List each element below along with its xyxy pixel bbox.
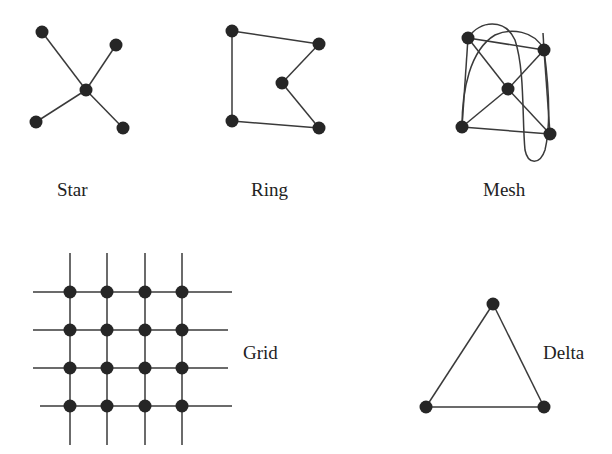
delta-node: [538, 401, 551, 414]
delta-topology: [420, 298, 551, 414]
grid-node: [176, 362, 189, 375]
mesh-edge: [508, 50, 544, 89]
delta-node: [420, 401, 433, 414]
mesh-edge: [544, 50, 550, 134]
star-edge: [42, 32, 86, 90]
star-edge: [86, 45, 116, 90]
star-node: [30, 116, 43, 129]
grid-node: [139, 362, 152, 375]
star-node: [110, 39, 123, 52]
grid-node: [101, 400, 114, 413]
star-node: [36, 26, 49, 39]
ring-edge: [282, 44, 319, 83]
grid-node: [64, 362, 77, 375]
delta-label: Delta: [543, 342, 585, 363]
grid-topology: [33, 253, 232, 445]
mesh-label: Mesh: [483, 179, 526, 200]
grid-node: [64, 286, 77, 299]
star-topology: [30, 26, 130, 135]
grid-node: [139, 324, 152, 337]
grid-node: [101, 324, 114, 337]
star-edge: [36, 90, 86, 122]
ring-node: [226, 115, 239, 128]
star-node: [80, 84, 93, 97]
grid-label: Grid: [243, 342, 278, 363]
star-label: Star: [57, 179, 88, 200]
ring-node: [226, 25, 239, 38]
mesh-edge: [468, 38, 508, 89]
grid-node: [101, 286, 114, 299]
grid-node: [101, 362, 114, 375]
mesh-node: [538, 44, 551, 57]
mesh-node: [502, 83, 515, 96]
grid-node: [176, 324, 189, 337]
ring-edge: [232, 121, 319, 128]
mesh-node: [462, 32, 475, 45]
grid-node: [139, 286, 152, 299]
delta-node: [487, 298, 500, 311]
ring-node: [313, 38, 326, 51]
mesh-edge: [462, 89, 508, 127]
ring-topology: [226, 25, 326, 135]
grid-node: [139, 400, 152, 413]
mesh-node: [544, 128, 557, 141]
ring-node: [276, 77, 289, 90]
ring-edge: [282, 83, 319, 128]
topology-diagram: Star Ring Mesh Grid Delta: [0, 0, 612, 454]
mesh-node: [456, 121, 469, 134]
delta-edge: [493, 304, 544, 407]
grid-node: [64, 400, 77, 413]
ring-node: [313, 122, 326, 135]
grid-node: [176, 400, 189, 413]
mesh-topology: [456, 24, 557, 161]
grid-node: [176, 286, 189, 299]
mesh-edge: [462, 127, 550, 134]
grid-node: [64, 324, 77, 337]
ring-label: Ring: [251, 179, 288, 200]
star-node: [117, 122, 130, 135]
ring-edge: [232, 31, 319, 44]
mesh-edge: [468, 38, 544, 50]
mesh-edge: [508, 89, 550, 134]
star-edge: [86, 90, 123, 128]
delta-edge: [426, 304, 493, 407]
